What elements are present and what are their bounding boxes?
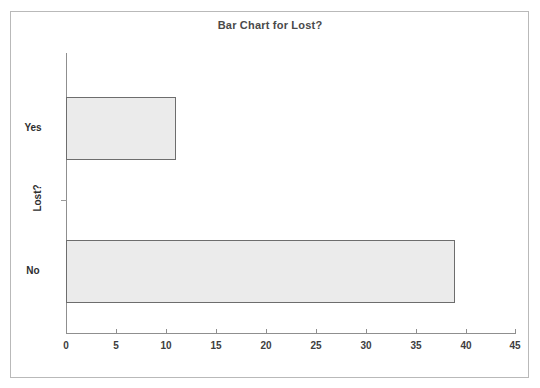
x-axis-tick [116, 329, 117, 334]
y-axis-title-text: Lost? [8, 168, 68, 228]
x-axis-tick [316, 329, 317, 334]
x-tick-label: 5 [96, 340, 136, 351]
x-tick-label: 0 [46, 340, 86, 351]
x-tick-label: 40 [446, 340, 486, 351]
x-tick-label: 30 [346, 340, 386, 351]
chart-title: Bar Chart for Lost? [0, 19, 540, 31]
x-tick-label: 25 [296, 340, 336, 351]
y-category-label-yes: Yes [8, 122, 58, 133]
bar-chart-figure: Bar Chart for Lost? 0 5 10 15 20 25 30 3… [0, 0, 540, 388]
x-axis-tick [66, 329, 67, 334]
x-tick-label: 20 [246, 340, 286, 351]
bar-yes[interactable] [66, 97, 176, 160]
x-axis-tick [366, 329, 367, 334]
figure-border [10, 11, 529, 378]
x-axis-tick [416, 329, 417, 334]
x-axis-tick [266, 329, 267, 334]
x-axis-tick [216, 329, 217, 334]
y-axis-title: Lost? [8, 168, 68, 228]
x-axis-tick [515, 329, 516, 334]
x-axis-line [66, 333, 515, 334]
x-tick-label: 35 [396, 340, 436, 351]
x-tick-label: 15 [196, 340, 236, 351]
y-category-label-no: No [8, 265, 58, 276]
x-axis-tick [166, 329, 167, 334]
x-axis-tick [466, 329, 467, 334]
bar-no[interactable] [66, 240, 455, 303]
x-tick-label: 45 [495, 340, 535, 351]
x-tick-label: 10 [146, 340, 186, 351]
